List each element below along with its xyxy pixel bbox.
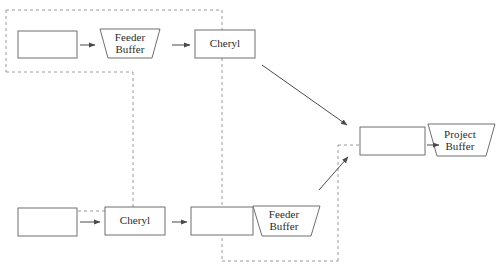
- node-bottom-cheryl[interactable]: [105, 207, 165, 235]
- node-top-cheryl[interactable]: [195, 30, 255, 58]
- node-bottom-task-2[interactable]: [191, 207, 253, 235]
- node-project-buffer[interactable]: [428, 124, 495, 156]
- arrow-a3: [262, 65, 347, 125]
- node-merge-task[interactable]: [360, 127, 425, 155]
- node-bottom-feeder-buffer[interactable]: [253, 206, 320, 236]
- node-shapes: [18, 29, 495, 236]
- diagram-canvas: Feeder Buffer Cheryl Cheryl Feeder Buffe…: [0, 0, 502, 272]
- node-top-task-1[interactable]: [18, 31, 77, 58]
- node-bottom-task-1[interactable]: [18, 208, 77, 236]
- arrow-a6: [319, 157, 348, 190]
- diagram-svg: [0, 0, 502, 272]
- node-top-feeder-buffer[interactable]: [100, 29, 160, 58]
